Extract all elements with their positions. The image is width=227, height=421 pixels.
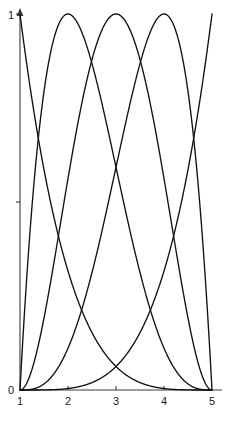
x-tick-label: 5 <box>209 395 215 407</box>
basis-curve-N3 <box>20 14 212 390</box>
y-tick-label: 1 <box>8 9 14 21</box>
curves-group <box>20 14 212 390</box>
x-tick-label: 2 <box>65 395 71 407</box>
y-tick-label: 0 <box>8 384 14 396</box>
basis-function-plot: 12345 01 <box>0 0 227 421</box>
chart-container: 12345 01 <box>0 0 227 421</box>
y-tick-labels: 01 <box>8 9 14 396</box>
basis-curve-N2 <box>20 14 212 390</box>
y-axis-ticks <box>16 14 20 202</box>
x-axis-ticks <box>68 386 164 390</box>
basis-curve-N1 <box>20 14 212 390</box>
basis-curve-N4 <box>20 14 212 390</box>
x-tick-labels: 12345 <box>17 395 215 407</box>
x-tick-label: 3 <box>113 395 119 407</box>
x-tick-label: 4 <box>161 395 167 407</box>
x-tick-label: 1 <box>17 395 23 407</box>
basis-curve-N0 <box>20 14 212 390</box>
